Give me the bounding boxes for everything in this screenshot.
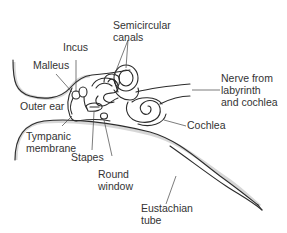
ear-anatomy-diagram: Semicircular canals Incus Malleus Outer … — [0, 0, 287, 233]
label-round-window-line2: window — [98, 180, 133, 192]
label-tympanic-membrane-line2: membrane — [26, 142, 76, 154]
label-stapes: Stapes — [71, 151, 104, 163]
label-round-window: Round window — [98, 168, 133, 192]
label-nerve-line3: and cochlea — [221, 96, 278, 108]
label-eustachian-tube-line2: tube — [141, 214, 193, 226]
label-nerve: Nerve from labyrinth and cochlea — [221, 72, 278, 108]
label-cochlea: Cochlea — [187, 119, 226, 131]
label-semicircular-canals-line2: canals — [113, 31, 171, 43]
label-outer-ear: Outer ear — [20, 100, 64, 112]
label-malleus: Malleus — [33, 59, 69, 71]
label-eustachian-tube-line1: Eustachian — [141, 202, 193, 214]
label-nerve-line2: labyrinth — [221, 84, 278, 96]
label-semicircular-canals-line1: Semicircular — [113, 19, 171, 31]
label-tympanic-membrane: Tympanic membrane — [26, 130, 76, 154]
label-semicircular-canals: Semicircular canals — [113, 19, 171, 43]
label-round-window-line1: Round — [98, 168, 133, 180]
label-eustachian-tube: Eustachian tube — [141, 202, 193, 226]
label-tympanic-membrane-line1: Tympanic — [26, 130, 76, 142]
label-nerve-line1: Nerve from — [221, 72, 278, 84]
label-incus: Incus — [63, 41, 88, 53]
